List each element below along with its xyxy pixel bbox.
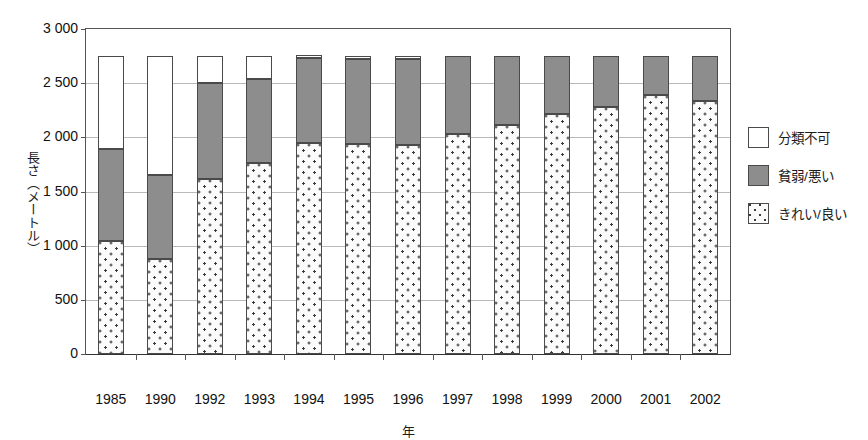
bar-segment-unclassified[interactable] bbox=[98, 56, 124, 149]
bar-segment-clean[interactable] bbox=[147, 259, 173, 354]
x-axis-tick-mark bbox=[185, 354, 186, 360]
bar-segment-clean[interactable] bbox=[345, 144, 371, 354]
y-axis-tick-label: 2 000 bbox=[26, 129, 78, 143]
bar-segment-unclassified[interactable] bbox=[395, 56, 421, 59]
x-axis-title: 年 bbox=[86, 421, 730, 440]
bar-segment-clean[interactable] bbox=[544, 114, 570, 355]
bar-stack[interactable] bbox=[445, 29, 471, 354]
x-axis-tick-mark bbox=[334, 354, 335, 360]
white-square-icon bbox=[748, 127, 769, 148]
y-axis-tick-mark bbox=[81, 192, 86, 193]
bar-segment-poor[interactable] bbox=[445, 56, 471, 134]
bar-segment-poor[interactable] bbox=[544, 56, 570, 113]
x-axis-tick-mark bbox=[433, 354, 434, 360]
bar-stack[interactable] bbox=[98, 29, 124, 354]
bar-segment-poor[interactable] bbox=[296, 58, 322, 143]
x-axis-tick-mark bbox=[482, 354, 483, 360]
bar-stack[interactable] bbox=[147, 29, 173, 354]
legend-item[interactable]: きれい/良い bbox=[748, 194, 864, 232]
x-axis-tick-mark bbox=[581, 354, 582, 360]
bar-segment-poor[interactable] bbox=[98, 149, 124, 241]
bar-stack[interactable] bbox=[197, 29, 223, 354]
bar-segment-clean[interactable] bbox=[593, 107, 619, 354]
y-axis-tick-label: 2 500 bbox=[26, 75, 78, 89]
y-axis-tick-mark bbox=[81, 29, 86, 30]
bar-segment-clean[interactable] bbox=[445, 134, 471, 354]
bar-segment-unclassified[interactable] bbox=[345, 56, 371, 59]
bar-segment-poor[interactable] bbox=[147, 175, 173, 258]
legend-item-label: 分類不可 bbox=[778, 127, 830, 147]
legend-item-label: 貧弱/悪い bbox=[778, 165, 834, 185]
bar-stack[interactable] bbox=[544, 29, 570, 354]
x-axis-tick-mark bbox=[284, 354, 285, 360]
gray-square-icon bbox=[748, 165, 769, 186]
y-axis-tick-mark bbox=[81, 137, 86, 138]
bar-segment-clean[interactable] bbox=[98, 241, 124, 354]
bar-segment-clean[interactable] bbox=[643, 95, 669, 354]
bar-segment-unclassified[interactable] bbox=[147, 56, 173, 175]
bar-segment-clean[interactable] bbox=[395, 145, 421, 354]
x-axis-tick-label: 2002 bbox=[675, 392, 735, 406]
y-axis-tick-label: 1 500 bbox=[26, 184, 78, 198]
bar-segment-clean[interactable] bbox=[296, 143, 322, 354]
bar-segment-unclassified[interactable] bbox=[246, 56, 272, 79]
bar-segment-poor[interactable] bbox=[395, 59, 421, 145]
legend-item-label: きれい/良い bbox=[778, 203, 847, 223]
x-axis-tick-mark bbox=[383, 354, 384, 360]
bar-stack[interactable] bbox=[246, 29, 272, 354]
x-axis-tick-mark bbox=[532, 354, 533, 360]
bar-stack[interactable] bbox=[345, 29, 371, 354]
plot-area: 1985199019921993199419951996199719981999… bbox=[85, 28, 731, 355]
y-axis-tick-label: 0 bbox=[26, 346, 78, 360]
bar-segment-poor[interactable] bbox=[246, 79, 272, 164]
y-axis-tick-mark bbox=[81, 300, 86, 301]
y-axis-tick-label: 500 bbox=[26, 292, 78, 306]
x-axis-tick-mark bbox=[136, 354, 137, 360]
bar-segment-unclassified[interactable] bbox=[197, 56, 223, 83]
bar-segment-poor[interactable] bbox=[643, 56, 669, 95]
bar-segment-poor[interactable] bbox=[494, 56, 520, 125]
bar-segment-clean[interactable] bbox=[246, 163, 272, 354]
y-axis-tick-label: 1 000 bbox=[26, 238, 78, 252]
dotted-square-icon bbox=[748, 203, 769, 224]
y-axis-tick-mark bbox=[81, 83, 86, 84]
bar-segment-poor[interactable] bbox=[593, 56, 619, 107]
bar-stack[interactable] bbox=[494, 29, 520, 354]
y-axis-tick-labels: 05001 0001 5002 0002 5003 000 bbox=[22, 0, 78, 427]
y-axis-tick-mark bbox=[81, 354, 86, 355]
y-axis-tick-label: 3 000 bbox=[26, 21, 78, 35]
legend-item[interactable]: 貧弱/悪い bbox=[748, 156, 864, 194]
bar-stack[interactable] bbox=[593, 29, 619, 354]
x-axis-tick-mark bbox=[235, 354, 236, 360]
x-axis-tick-mark bbox=[631, 354, 632, 360]
bar-segment-clean[interactable] bbox=[494, 125, 520, 354]
bar-segment-clean[interactable] bbox=[197, 179, 223, 355]
bar-stack[interactable] bbox=[296, 29, 322, 354]
bar-segment-poor[interactable] bbox=[345, 59, 371, 144]
bar-stack[interactable] bbox=[395, 29, 421, 354]
chart-legend: 分類不可貧弱/悪いきれい/良い bbox=[748, 118, 864, 232]
x-axis-tick-mark bbox=[680, 354, 681, 360]
legend-item[interactable]: 分類不可 bbox=[748, 118, 864, 156]
bar-segment-poor[interactable] bbox=[692, 56, 718, 100]
bar-segment-poor[interactable] bbox=[197, 83, 223, 178]
bar-segment-clean[interactable] bbox=[692, 101, 718, 355]
bar-stack[interactable] bbox=[692, 29, 718, 354]
y-axis-tick-mark bbox=[81, 246, 86, 247]
bar-segment-unclassified[interactable] bbox=[296, 55, 322, 58]
bar-stack[interactable] bbox=[643, 29, 669, 354]
